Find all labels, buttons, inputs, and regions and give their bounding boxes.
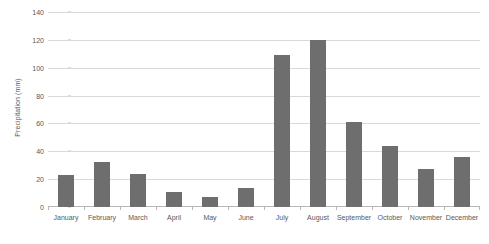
bar-slot bbox=[156, 12, 192, 207]
y-axis-tick-label: 120 bbox=[32, 36, 44, 43]
bar[interactable] bbox=[166, 192, 182, 207]
x-axis-tick-label: January bbox=[48, 213, 84, 227]
y-axis-tick-label: 0 bbox=[40, 204, 44, 211]
bar[interactable] bbox=[130, 174, 146, 207]
x-axis-tick-label: April bbox=[156, 213, 192, 227]
x-axis-tick-label: December bbox=[444, 213, 480, 227]
plot-area bbox=[48, 12, 480, 207]
x-axis-tick-slot bbox=[444, 207, 480, 211]
x-axis-tick-slot bbox=[48, 207, 84, 211]
y-axis-tick-label: 60 bbox=[36, 120, 44, 127]
x-axis-tick-slot bbox=[300, 207, 336, 211]
bar-slot bbox=[372, 12, 408, 207]
precipitation-bar-chart: Precipitation (mm) 020406080100120140 Ja… bbox=[0, 0, 489, 244]
x-axis-tick-marks bbox=[48, 207, 480, 211]
x-axis-tick-label: November bbox=[408, 213, 444, 227]
x-axis-tick-slot bbox=[192, 207, 228, 211]
x-axis-tick-slot bbox=[228, 207, 264, 211]
bar-series bbox=[48, 12, 480, 207]
bar-slot bbox=[120, 12, 156, 207]
x-axis-tick-mark bbox=[264, 207, 265, 210]
bar-slot bbox=[48, 12, 84, 207]
bar-slot bbox=[300, 12, 336, 207]
x-axis-tick-slot bbox=[372, 207, 408, 211]
x-axis-tick-mark bbox=[372, 207, 373, 210]
x-axis-tick-slot bbox=[156, 207, 192, 211]
bar[interactable] bbox=[310, 40, 326, 207]
y-axis-tick-label: 80 bbox=[36, 92, 44, 99]
bar[interactable] bbox=[418, 169, 434, 207]
x-axis-tick-mark bbox=[300, 207, 301, 210]
bar-slot bbox=[84, 12, 120, 207]
x-axis-tick-slot bbox=[120, 207, 156, 211]
x-axis-tick-mark bbox=[48, 207, 49, 210]
bar-slot bbox=[228, 12, 264, 207]
bar[interactable] bbox=[274, 55, 290, 207]
x-axis-tick-mark bbox=[120, 207, 121, 210]
bar[interactable] bbox=[58, 175, 74, 207]
x-axis-tick-mark bbox=[156, 207, 157, 210]
x-axis-tick-mark bbox=[84, 207, 85, 210]
x-axis-tick-label: August bbox=[300, 213, 336, 227]
y-axis-title-label: Precipitation (mm) bbox=[14, 78, 21, 137]
x-axis-tick-mark bbox=[228, 207, 229, 210]
bar[interactable] bbox=[238, 188, 254, 208]
bar[interactable] bbox=[94, 162, 110, 207]
x-axis-tick-label: June bbox=[228, 213, 264, 227]
x-axis-tick-label: July bbox=[264, 213, 300, 227]
bar-slot bbox=[336, 12, 372, 207]
x-axis-tick-label: October bbox=[372, 213, 408, 227]
bar-slot bbox=[264, 12, 300, 207]
x-axis-tick-label: September bbox=[336, 213, 372, 227]
bar[interactable] bbox=[346, 122, 362, 207]
x-axis-tick-mark bbox=[444, 207, 445, 210]
x-axis-tick-slot bbox=[84, 207, 120, 211]
x-axis-tick-slot bbox=[336, 207, 372, 211]
y-axis-tick-label: 40 bbox=[36, 148, 44, 155]
bar-slot bbox=[444, 12, 480, 207]
bar[interactable] bbox=[382, 146, 398, 207]
x-axis-tick-mark bbox=[336, 207, 337, 210]
x-axis-tick-slot bbox=[264, 207, 300, 211]
y-axis-tick-label: 100 bbox=[32, 64, 44, 71]
x-axis-tick-slot bbox=[408, 207, 444, 211]
x-axis-tick-label: March bbox=[120, 213, 156, 227]
bar-slot bbox=[408, 12, 444, 207]
bar[interactable] bbox=[454, 157, 470, 207]
x-axis-tick-mark bbox=[192, 207, 193, 210]
y-axis-tick-label: 20 bbox=[36, 176, 44, 183]
y-axis-tick-label: 140 bbox=[32, 9, 44, 16]
bar[interactable] bbox=[202, 197, 218, 207]
y-axis-tick-labels: 020406080100120140 bbox=[22, 12, 44, 207]
x-axis-tick-mark bbox=[408, 207, 409, 210]
x-axis-tick-mark-end bbox=[479, 207, 480, 210]
x-axis-tick-label: May bbox=[192, 213, 228, 227]
x-axis-tick-label: February bbox=[84, 213, 120, 227]
x-axis-tick-labels: JanuaryFebruaryMarchAprilMayJuneJulyAugu… bbox=[48, 213, 480, 227]
bar-slot bbox=[192, 12, 228, 207]
